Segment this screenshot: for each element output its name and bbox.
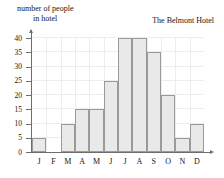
chart-title: The Belmont Hotel xyxy=(152,16,214,25)
y-tick-mark xyxy=(26,38,31,39)
bar-J-5 xyxy=(104,81,118,152)
y-tick-mark xyxy=(26,152,31,153)
bar-M-4 xyxy=(89,109,103,152)
x-tick-label-5: J xyxy=(104,158,118,166)
x-tick-label-8: S xyxy=(147,158,161,166)
y-tick-mark xyxy=(26,67,31,68)
y-tick-label-25: 25 xyxy=(8,77,22,85)
x-tick-label-7: A xyxy=(132,158,146,166)
y-tick-mark xyxy=(26,81,31,82)
y-tick-label-10: 10 xyxy=(8,120,22,128)
bar-N-10 xyxy=(175,138,189,152)
y-tick-mark xyxy=(26,95,31,96)
x-tick-label-0: J xyxy=(32,158,46,166)
y-tick-label-5: 5 xyxy=(8,134,22,142)
bar-S-8 xyxy=(147,52,161,152)
y-tick-mark xyxy=(26,138,31,139)
gridline-vertical xyxy=(46,38,47,152)
x-tick-label-2: M xyxy=(61,158,75,166)
y-tick-label-0: 0 xyxy=(8,149,22,157)
y-axis-label: number of people in hotel xyxy=(17,4,73,24)
y-axis-label-line2: in hotel xyxy=(17,14,73,24)
bar-O-9 xyxy=(161,95,175,152)
x-tick-label-6: J xyxy=(118,158,132,166)
y-tick-label-35: 35 xyxy=(8,49,22,57)
bar-A-3 xyxy=(75,109,89,152)
bar-D-11 xyxy=(190,124,204,153)
x-axis-line xyxy=(31,152,211,153)
y-axis-arrow-icon xyxy=(29,29,33,33)
y-tick-mark xyxy=(26,124,31,125)
x-tick-label-10: N xyxy=(175,158,189,166)
x-tick-label-4: M xyxy=(89,158,103,166)
y-tick-label-20: 20 xyxy=(8,92,22,100)
x-tick-label-9: O xyxy=(161,158,175,166)
x-tick-label-1: F xyxy=(46,158,60,166)
x-axis-arrow-icon xyxy=(210,150,214,154)
y-tick-mark xyxy=(26,52,31,53)
x-tick-label-11: D xyxy=(190,158,204,166)
y-tick-label-15: 15 xyxy=(8,106,22,114)
bar-J-0 xyxy=(32,138,46,152)
y-tick-label-30: 30 xyxy=(8,63,22,71)
y-axis-label-line1: number of people xyxy=(17,4,73,13)
bar-J-6 xyxy=(118,38,132,152)
plot-area xyxy=(32,38,204,152)
bar-A-7 xyxy=(132,38,146,152)
y-tick-mark xyxy=(26,109,31,110)
x-tick-label-3: A xyxy=(75,158,89,166)
bar-M-2 xyxy=(61,124,75,153)
gridline-vertical xyxy=(175,38,176,152)
y-tick-label-40: 40 xyxy=(8,35,22,43)
